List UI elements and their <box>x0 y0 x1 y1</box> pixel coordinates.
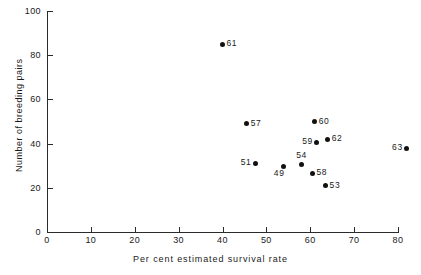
y-tick-60 <box>48 99 53 100</box>
data-point-label-51: 51 <box>241 158 256 167</box>
y-tick-40 <box>48 144 53 145</box>
x-tick-50 <box>266 227 267 232</box>
x-tick-20 <box>135 227 136 232</box>
y-tick-100 <box>48 11 53 12</box>
data-point-54 <box>299 162 304 167</box>
scatter-plot-figure: 020406080100 01020304050607080 615760596… <box>0 0 421 275</box>
x-tick-label-60: 60 <box>298 236 322 245</box>
x-tick-80 <box>398 227 399 232</box>
x-tick-40 <box>223 227 224 232</box>
data-point-62 <box>325 137 330 142</box>
data-point-58 <box>310 171 315 176</box>
y-tick-80 <box>48 55 53 56</box>
y-axis-title: Number of breeding pairs <box>14 58 24 172</box>
x-tick-60 <box>310 227 311 232</box>
data-point-label-49: 49 <box>274 169 285 178</box>
data-point-60 <box>312 119 317 124</box>
data-point-53 <box>323 183 328 188</box>
x-tick-label-70: 70 <box>342 236 366 245</box>
y-tick-label-100: 100 <box>12 7 41 16</box>
x-axis-title: Per cent estimated survival rate <box>0 254 421 264</box>
y-axis-line <box>47 11 48 233</box>
data-point-label-62: 62 <box>332 134 343 143</box>
x-axis-line <box>47 232 399 233</box>
x-tick-label-80: 80 <box>386 236 410 245</box>
data-point-label-60: 60 <box>319 117 330 126</box>
x-tick-label-20: 20 <box>123 236 147 245</box>
y-tick-20 <box>48 188 53 189</box>
data-point-label-63: 63 <box>392 143 407 152</box>
x-tick-label-30: 30 <box>167 236 191 245</box>
x-tick-10 <box>91 227 92 232</box>
data-point-57 <box>244 121 249 126</box>
x-tick-label-40: 40 <box>211 236 235 245</box>
x-tick-70 <box>354 227 355 232</box>
data-point-label-53: 53 <box>330 181 341 190</box>
x-tick-label-50: 50 <box>254 236 278 245</box>
data-point-label-57: 57 <box>251 119 262 128</box>
x-tick-label-0: 0 <box>35 236 59 245</box>
x-tick-30 <box>179 227 180 232</box>
y-tick-label-20: 20 <box>12 184 41 193</box>
x-tick-label-10: 10 <box>79 236 103 245</box>
data-point-label-61: 61 <box>227 39 238 48</box>
data-point-label-59: 59 <box>302 137 317 146</box>
data-point-61 <box>220 42 225 47</box>
data-point-label-54: 54 <box>296 151 307 160</box>
data-point-label-58: 58 <box>316 168 327 177</box>
plot-area: 020406080100 01020304050607080 615760596… <box>0 0 421 275</box>
